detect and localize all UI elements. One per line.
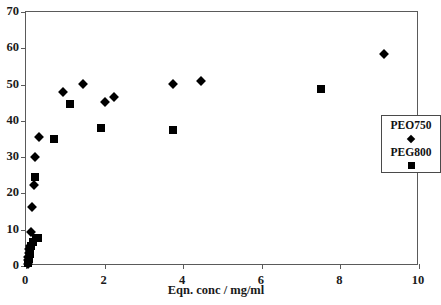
data-point-peo750 xyxy=(58,87,68,97)
x-axis-tick xyxy=(340,264,341,269)
y-axis-tick-label: 70 xyxy=(7,4,20,19)
data-point-peo750 xyxy=(27,202,37,212)
y-axis-tick xyxy=(21,230,26,231)
data-point-peg800 xyxy=(31,173,39,181)
y-axis-tick-label: 0 xyxy=(13,258,19,273)
legend-label-peo750: PEO750 xyxy=(391,119,432,132)
x-axis-tick xyxy=(105,264,106,269)
plot-area: PEO750 PEG800 xyxy=(25,11,418,265)
legend-label-peg800: PEG800 xyxy=(391,146,432,159)
x-axis-tick xyxy=(419,264,420,269)
y-axis-tick xyxy=(21,157,26,158)
y-axis-tick-label: 20 xyxy=(7,185,20,200)
data-point-peo750 xyxy=(29,180,39,190)
y-axis-tick xyxy=(21,12,26,13)
y-axis-tick xyxy=(21,193,26,194)
x-axis-tick xyxy=(262,264,263,269)
data-point-peo750 xyxy=(109,92,119,102)
data-point-peo750 xyxy=(34,132,44,142)
data-point-peo750 xyxy=(30,152,40,162)
data-point-peo750 xyxy=(168,79,178,89)
y-axis-tick xyxy=(21,48,26,49)
y-axis-tick-label: 30 xyxy=(7,149,20,164)
legend-marker-square-icon xyxy=(408,162,415,169)
data-point-peg800 xyxy=(34,234,42,242)
data-point-peg800 xyxy=(317,85,325,93)
y-axis-tick-label: 10 xyxy=(7,221,20,236)
data-point-peo750 xyxy=(78,79,88,89)
data-point-peg800 xyxy=(50,135,58,143)
x-axis-title: Eqn. conc / mg/ml xyxy=(0,283,432,298)
data-point-peo750 xyxy=(379,49,389,59)
y-axis-tick xyxy=(21,121,26,122)
legend-marker-diamond-icon xyxy=(407,134,415,142)
y-axis-tick-label: 50 xyxy=(7,76,20,91)
x-axis-tick xyxy=(183,264,184,269)
data-point-peo750 xyxy=(196,76,206,86)
data-point-peg800 xyxy=(169,126,177,134)
y-axis-tick xyxy=(21,85,26,86)
data-point-peg800 xyxy=(97,124,105,132)
chart-legend: PEO750 PEG800 xyxy=(381,115,441,173)
y-axis-tick-label: 40 xyxy=(7,112,20,127)
data-point-peg800 xyxy=(66,100,74,108)
data-point-peo750 xyxy=(100,97,110,107)
y-axis-tick-label: 60 xyxy=(7,40,20,55)
